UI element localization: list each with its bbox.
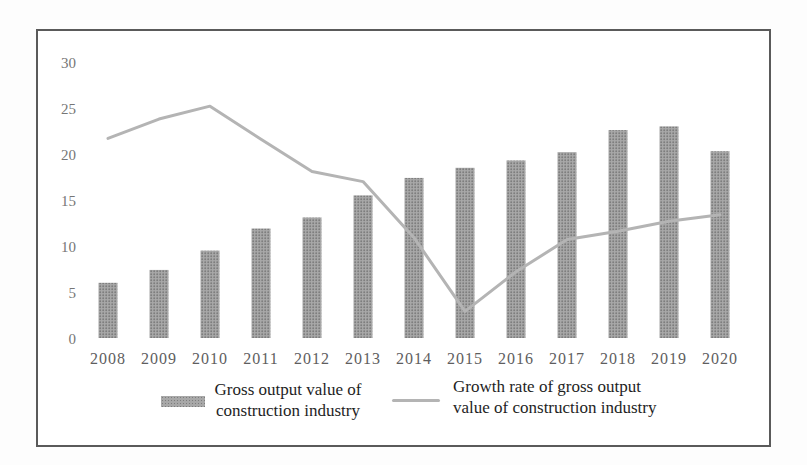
bar-2013 (354, 195, 373, 338)
x-axis-label-2013: 2013 (345, 350, 381, 367)
x-axis-label-2017: 2017 (549, 350, 585, 367)
x-axis-label-2010: 2010 (192, 350, 228, 367)
x-axis-label-2016: 2016 (498, 350, 534, 367)
x-axis-label-2012: 2012 (294, 350, 330, 367)
bar-2014 (405, 178, 424, 338)
x-axis-label-2018: 2018 (600, 350, 636, 367)
y-axis-tick-0: 0 (69, 331, 77, 347)
legend-label-growth-rate-line1: Growth rate of gross output (453, 376, 683, 397)
x-axis-label-2015: 2015 (447, 350, 483, 367)
bar-2008 (99, 283, 118, 338)
legend-label-gross-output-line2: construction industry (204, 400, 372, 421)
y-axis-tick-15: 15 (61, 193, 76, 209)
x-axis-label-2008: 2008 (90, 350, 126, 367)
x-axis-label-2011: 2011 (243, 350, 278, 367)
x-axis-label-2019: 2019 (651, 350, 687, 367)
y-axis-tick-10: 10 (61, 239, 76, 255)
bar-2018 (609, 130, 628, 338)
bar-2019 (660, 126, 679, 338)
x-axis-label-2009: 2009 (141, 350, 177, 367)
bar-2011 (252, 229, 271, 338)
x-axis-label-2014: 2014 (396, 350, 432, 367)
y-axis-tick-30: 30 (61, 55, 76, 71)
line-series-swatch (392, 399, 440, 402)
bar-2010 (201, 251, 220, 338)
bar-2009 (150, 270, 169, 338)
legend-label-growth-rate-line2: value of construction industry (453, 397, 683, 418)
x-axis-label-2020: 2020 (702, 350, 738, 367)
bar-series-swatch (161, 396, 205, 407)
combo-chart: 0510152025302008200920102011201220132014… (0, 0, 807, 465)
legend-label-growth-rate: Growth rate of gross output value of con… (453, 376, 683, 418)
legend-label-gross-output: Gross output value of construction indus… (204, 379, 372, 421)
bar-2012 (303, 217, 322, 338)
legend-label-gross-output-line1: Gross output value of (204, 379, 372, 400)
y-axis-tick-25: 25 (61, 101, 76, 117)
y-axis-tick-20: 20 (61, 147, 76, 163)
chart-page: 0510152025302008200920102011201220132014… (0, 0, 807, 465)
bar-2020 (711, 151, 730, 338)
y-axis-tick-5: 5 (69, 285, 77, 301)
bar-2016 (507, 160, 526, 338)
